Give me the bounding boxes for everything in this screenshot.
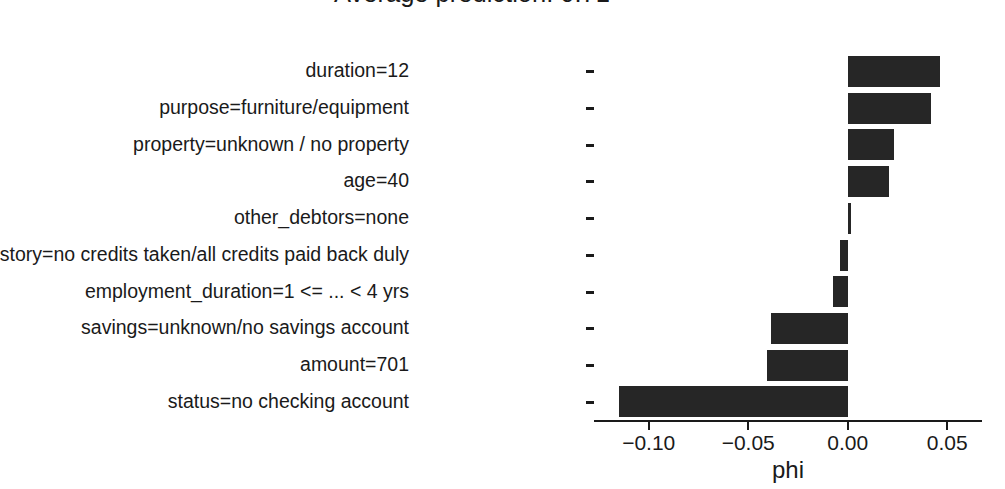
x-tick-label: −0.10	[622, 432, 675, 453]
bar-row	[0, 90, 1005, 128]
bar-row	[0, 310, 1005, 348]
bar-row	[0, 347, 1005, 385]
bar	[619, 386, 848, 417]
shap-contribution-chart: Average prediction: 0.71 duration=12purp…	[0, 0, 1005, 489]
bar	[840, 240, 848, 271]
bar	[848, 56, 940, 87]
x-tick-label: −0.05	[722, 432, 775, 453]
bar-row	[0, 237, 1005, 275]
x-tick-mark	[648, 422, 650, 430]
bar	[848, 166, 890, 197]
chart-title: Average prediction: 0.71	[0, 0, 944, 8]
x-axis-title: phi	[594, 458, 982, 482]
bar	[767, 350, 848, 381]
bar	[771, 313, 848, 344]
x-tick-mark	[847, 422, 849, 430]
bar	[848, 129, 895, 160]
bar	[848, 203, 851, 234]
bar-row	[0, 53, 1005, 91]
bar-row	[0, 163, 1005, 201]
bar-row	[0, 200, 1005, 238]
bar	[833, 276, 848, 307]
bar-row	[0, 273, 1005, 311]
x-tick-mark	[747, 422, 749, 430]
x-tick-label: 0.05	[927, 432, 968, 453]
chart-title-line-2: Average prediction: 0.71	[0, 0, 944, 8]
x-tick-mark	[946, 422, 948, 430]
bar	[848, 93, 931, 124]
bar-row	[0, 126, 1005, 164]
x-tick-label: 0.00	[827, 432, 868, 453]
bar-row	[0, 383, 1005, 421]
